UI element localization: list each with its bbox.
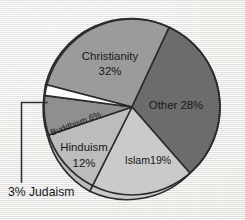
pie-chart-svg: Christianity 32% Other 28% Islam19% Hind… [0, 0, 245, 220]
label-christianity-value: 32% [99, 65, 122, 77]
label-other: Other 28% [149, 99, 203, 111]
label-christianity-name: Christianity [82, 50, 139, 62]
label-islam: Islam19% [125, 154, 172, 166]
label-judaism-callout: 3% Judaism [8, 185, 74, 199]
label-hinduism-name: Hinduism [60, 141, 107, 153]
pie-chart-figure: Christianity 32% Other 28% Islam19% Hind… [0, 0, 245, 220]
label-hinduism-value: 12% [73, 157, 96, 169]
